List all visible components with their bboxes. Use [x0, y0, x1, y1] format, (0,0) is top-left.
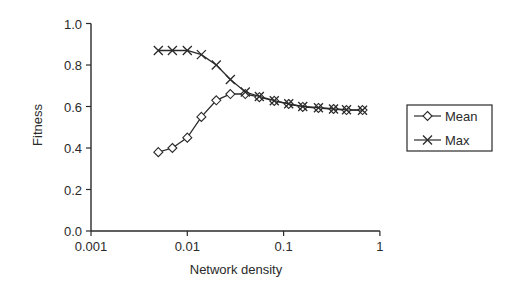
x-marker-icon — [197, 50, 206, 59]
x-tick-label: 0.001 — [75, 239, 108, 254]
y-tick-label: 0.0 — [64, 224, 82, 239]
legend-label-mean: Mean — [445, 109, 478, 124]
y-tick-label: 0.6 — [64, 100, 82, 115]
x-tick-label: 0.01 — [175, 239, 200, 254]
y-tick-label: 1.0 — [64, 17, 82, 32]
y-axis: 0.00.20.40.60.81.0 — [64, 17, 91, 240]
diamond-marker-icon — [154, 148, 163, 157]
x-axis: 0.0010.010.11 — [75, 231, 384, 254]
y-tick-label: 0.8 — [64, 58, 82, 73]
diamond-marker-icon — [241, 90, 250, 99]
series-mean — [154, 90, 367, 157]
x-axis-label: Network density — [190, 262, 283, 277]
y-tick-label: 0.2 — [64, 183, 82, 198]
x-marker-icon — [226, 75, 235, 84]
legend: Mean Max — [407, 105, 492, 151]
plot-area — [154, 46, 367, 157]
series-max — [154, 46, 367, 115]
x-marker-icon — [212, 61, 221, 70]
x-tick-label: 0.1 — [275, 239, 293, 254]
diamond-marker-icon — [183, 133, 192, 142]
chart: 0.00.20.40.60.81.0 0.0010.010.11 Network… — [0, 0, 521, 302]
diamond-marker-icon — [226, 90, 235, 99]
y-tick-label: 0.4 — [64, 141, 82, 156]
diamond-marker-icon — [168, 144, 177, 153]
legend-label-max: Max — [445, 133, 470, 148]
x-tick-label: 1 — [376, 239, 383, 254]
y-axis-label: Fitness — [30, 104, 45, 146]
